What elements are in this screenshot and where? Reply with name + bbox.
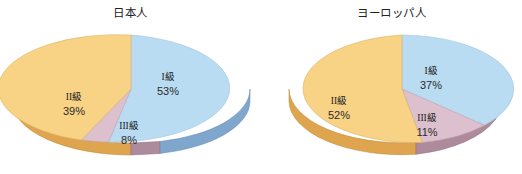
pie-chart-figure: 日本人 I級 53% [0, 0, 522, 174]
slice-value-III: 8% [121, 134, 137, 146]
slice-value-II: 52% [328, 109, 350, 121]
slice-label-I: I級 [161, 71, 174, 82]
slice-value-I: 53% [157, 85, 179, 97]
chart-title-european: ヨーロッパ人 [261, 4, 522, 20]
chart-panel-japanese: 日本人 I級 53% [0, 0, 261, 174]
slice-label-III: III級 [417, 112, 437, 123]
pie-top-japanese [0, 35, 230, 143]
pie-top-european [303, 35, 514, 143]
chart-panel-european: ヨーロッパ人 I級 37 [261, 0, 522, 174]
slice-value-II: 39% [63, 105, 85, 117]
slice-label-III: III級 [119, 120, 139, 131]
pie-chart-japanese: I級 53% II級 39% III級 8% [0, 22, 261, 174]
slice-label-I: I級 [424, 65, 437, 76]
chart-title-japanese: 日本人 [0, 4, 261, 20]
slice-value-I: 37% [420, 79, 442, 91]
slice-value-III: 11% [416, 126, 437, 138]
slice-label-II: II級 [331, 95, 347, 106]
slice-label-II: II級 [66, 91, 82, 102]
pie-chart-european: I級 37% II級 52% III級 11% [261, 22, 522, 174]
